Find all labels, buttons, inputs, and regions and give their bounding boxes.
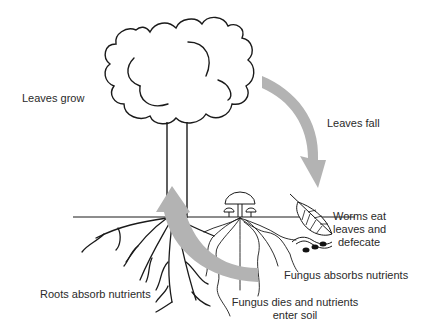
label-fungus-dies-line1: Fungus dies and nutrients — [222, 296, 368, 309]
nutrient-cycle-diagram: Leaves grow Leaves fall Worms eat leaves… — [0, 0, 422, 333]
label-leaves-fall: Leaves fall — [327, 117, 380, 130]
label-leaves-grow: Leaves grow — [22, 92, 84, 105]
label-worms-line2: leaves and — [333, 223, 385, 236]
label-fungus-dies-line2: enter soil — [222, 309, 368, 322]
mushrooms — [224, 192, 256, 217]
worm-droppings — [303, 242, 327, 253]
label-fungus-absorbs: Fungus absorbs nutrients — [284, 269, 408, 282]
arrow-leaves-fall — [262, 76, 326, 188]
label-worms-line1: Worms eat — [333, 210, 385, 223]
label-fungus-dies: Fungus dies and nutrients enter soil — [222, 296, 368, 322]
label-worms: Worms eat leaves and defecate — [333, 210, 385, 249]
label-roots-absorb: Roots absorb nutrients — [40, 288, 151, 301]
tree-canopy — [105, 17, 254, 123]
diagram-canvas — [0, 0, 422, 333]
leaf — [290, 194, 332, 235]
label-worms-line3: defecate — [333, 236, 385, 249]
